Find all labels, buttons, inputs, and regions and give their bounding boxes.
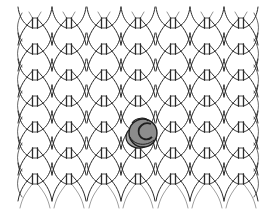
yarn-ball-icon (126, 118, 157, 148)
knit-stitch-grid (18, 7, 259, 208)
knit-pattern-canvas (0, 0, 276, 223)
